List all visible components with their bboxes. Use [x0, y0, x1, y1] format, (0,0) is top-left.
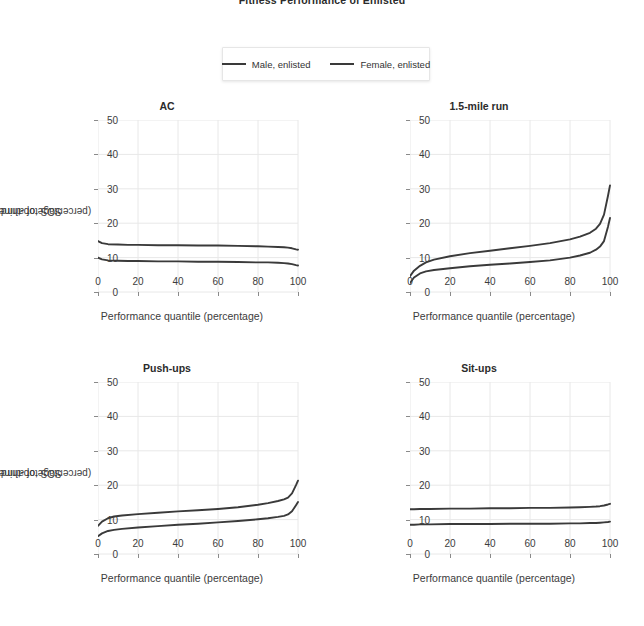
legend-label-female: Female, enlisted: [360, 59, 430, 70]
plot-svg: [98, 382, 300, 556]
x-axis-tick-mark: [610, 554, 611, 558]
y-axis-tick-mark: [406, 223, 410, 224]
panel-run: 1.5-mile run Performance quantile (perce…: [324, 98, 634, 360]
line-swatch-icon: [330, 63, 354, 65]
x-axis-tick-label: 100: [602, 276, 619, 287]
plot-area: [410, 120, 610, 292]
plot-area: [98, 382, 298, 554]
x-axis-tick-label: 100: [290, 276, 307, 287]
y-axis-label-line2: (percentage of airmen): [0, 467, 92, 479]
x-axis-tick-mark: [98, 292, 99, 296]
plot-svg: [98, 120, 300, 294]
x-axis-tick-mark: [410, 554, 411, 558]
legend-item-male: Male, enlisted: [222, 59, 311, 70]
x-axis-tick-mark: [138, 292, 139, 296]
x-axis-tick-mark: [490, 554, 491, 558]
x-axis-tick-label: 20: [444, 276, 455, 287]
panel-ac: AC SOS top-third or DG(percentage of air…: [12, 98, 322, 360]
series-line: [410, 504, 610, 510]
y-axis-tick-mark: [94, 120, 98, 121]
plot-area: [98, 120, 298, 292]
x-axis-tick-mark: [258, 292, 259, 296]
y-axis-tick-mark: [406, 258, 410, 259]
y-axis-tick-mark: [406, 189, 410, 190]
x-axis-tick-mark: [410, 292, 411, 296]
x-axis-tick-mark: [298, 554, 299, 558]
x-axis-tick-label: 0: [407, 538, 413, 549]
series-line: [98, 258, 298, 266]
y-axis-tick-mark: [94, 154, 98, 155]
series-line: [410, 218, 610, 283]
x-axis-tick-label: 40: [172, 538, 183, 549]
x-axis-label: Performance quantile (percentage): [52, 572, 312, 584]
y-axis-tick-mark: [94, 520, 98, 521]
x-axis-tick-mark: [610, 292, 611, 296]
y-axis-tick-mark: [94, 258, 98, 259]
plot-svg: [410, 382, 612, 556]
x-axis-tick-label: 40: [172, 276, 183, 287]
y-axis-label: SOS top-third or DG(percentage of airmen…: [18, 378, 40, 568]
panel-title: 1.5-mile run: [324, 100, 634, 112]
x-axis-tick-mark: [218, 554, 219, 558]
y-axis-label-line2: (percentage of airmen): [0, 205, 92, 217]
legend-label-male: Male, enlisted: [252, 59, 311, 70]
y-axis-tick-mark: [406, 120, 410, 121]
x-axis-tick-label: 80: [564, 538, 575, 549]
y-axis-tick-mark: [94, 485, 98, 486]
x-axis-tick-mark: [530, 292, 531, 296]
panel-situps: Sit-ups Performance quantile (percentage…: [324, 360, 634, 622]
x-axis-tick-mark: [490, 292, 491, 296]
x-axis-tick-label: 0: [95, 538, 101, 549]
y-axis-tick-mark: [94, 223, 98, 224]
series-line: [98, 502, 298, 536]
x-axis-label: Performance quantile (percentage): [52, 310, 312, 322]
x-axis-tick-mark: [258, 554, 259, 558]
x-axis-tick-mark: [570, 292, 571, 296]
y-axis-tick-mark: [406, 451, 410, 452]
x-axis-tick-label: 60: [524, 538, 535, 549]
y-axis-tick-mark: [406, 416, 410, 417]
x-axis-tick-mark: [530, 554, 531, 558]
x-axis-tick-mark: [218, 292, 219, 296]
panel-pushups: Push-ups SOS top-third or DG(percentage …: [12, 360, 322, 622]
x-axis-tick-label: 20: [132, 538, 143, 549]
x-axis-tick-mark: [138, 554, 139, 558]
legend: Male, enlisted Female, enlisted: [222, 47, 430, 81]
y-axis-tick-mark: [94, 451, 98, 452]
legend-item-female: Female, enlisted: [330, 59, 430, 70]
x-axis-tick-label: 0: [95, 276, 101, 287]
x-axis-tick-label: 60: [212, 538, 223, 549]
y-axis-tick-mark: [406, 382, 410, 383]
x-axis-tick-mark: [450, 554, 451, 558]
x-axis-tick-label: 80: [252, 276, 263, 287]
x-axis-label: Performance quantile (percentage): [364, 310, 624, 322]
y-axis-tick-mark: [94, 416, 98, 417]
y-axis-tick-mark: [406, 520, 410, 521]
x-axis-tick-mark: [178, 292, 179, 296]
series-line: [98, 241, 298, 250]
x-axis-tick-label: 0: [407, 276, 413, 287]
x-axis-tick-mark: [98, 554, 99, 558]
x-axis-label: Performance quantile (percentage): [364, 572, 624, 584]
line-swatch-icon: [222, 63, 246, 65]
x-axis-tick-label: 40: [484, 538, 495, 549]
y-axis-label: SOS top-third or DG(percentage of airmen…: [18, 116, 40, 306]
x-axis-tick-label: 60: [524, 276, 535, 287]
y-axis-tick-mark: [406, 154, 410, 155]
panel-title: Push-ups: [12, 362, 322, 374]
y-axis-tick-mark: [94, 189, 98, 190]
x-axis-tick-label: 100: [290, 538, 307, 549]
x-axis-tick-label: 80: [564, 276, 575, 287]
x-axis-tick-label: 40: [484, 276, 495, 287]
y-axis-tick-mark: [94, 382, 98, 383]
panel-title: AC: [12, 100, 322, 112]
x-axis-tick-mark: [570, 554, 571, 558]
figure-title: Fitness Performance of Enlisted: [0, 0, 644, 6]
x-axis-tick-mark: [178, 554, 179, 558]
series-line: [410, 522, 610, 525]
plot-area: [410, 382, 610, 554]
panel-grid: AC SOS top-third or DG(percentage of air…: [0, 98, 644, 626]
panel-title: Sit-ups: [324, 362, 634, 374]
x-axis-tick-label: 80: [252, 538, 263, 549]
y-axis-tick-mark: [406, 485, 410, 486]
